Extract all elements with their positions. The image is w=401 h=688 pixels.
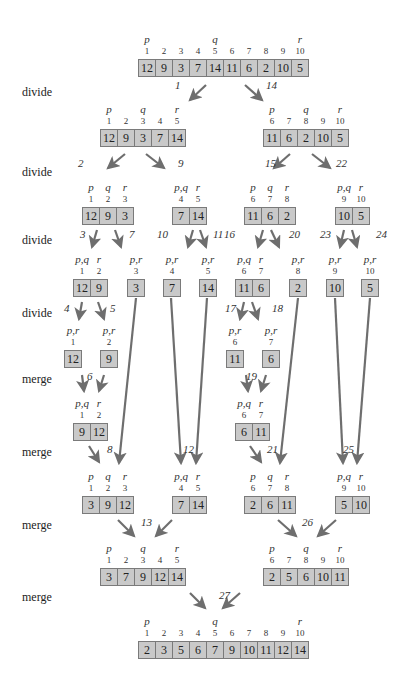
index-label: 5 (206, 46, 224, 56)
array-cells: 7 (163, 279, 181, 297)
pointer-label: r (331, 103, 349, 115)
pointer-label: p,q (335, 470, 353, 482)
array-cell: 6 (297, 568, 315, 586)
array-cell: 3 (127, 279, 145, 297)
arrow (156, 520, 172, 536)
pointer-label: p (263, 103, 281, 115)
row-label-divide: divide (22, 165, 52, 180)
array-cell: 11 (278, 496, 296, 514)
array-cell: 7 (117, 568, 135, 586)
step-number: 13 (141, 516, 152, 528)
row-label-merge: merge (22, 372, 52, 387)
index-label: 2 (117, 555, 135, 565)
index-label: 2 (155, 628, 173, 638)
index-label: 1 (100, 116, 118, 126)
array-cell: 7 (172, 496, 190, 514)
pointer-label: p,r (289, 253, 307, 265)
array-cell: 12 (64, 350, 82, 368)
array-cell: 5 (361, 279, 379, 297)
index-label: 10 (331, 116, 349, 126)
index-label: 7 (252, 266, 270, 276)
step-number: 9 (178, 157, 184, 169)
index-label: 3 (134, 555, 152, 565)
array-cells: 3791214 (100, 568, 186, 586)
pointer-label: p,q (73, 253, 91, 265)
arrow (200, 230, 206, 247)
pointer-label: r (168, 103, 186, 115)
array-cells: 5 (361, 279, 379, 297)
step-number: 18 (272, 302, 283, 314)
array-cell: 3 (134, 129, 152, 147)
pointer-label: p,r (262, 324, 280, 336)
pointer-label: p (100, 542, 118, 554)
pointer-label: p,r (326, 253, 344, 265)
step-number: 8 (107, 443, 113, 455)
index-label: 10 (331, 555, 349, 565)
index-label: 9 (326, 266, 344, 276)
array-cell: 6 (252, 279, 270, 297)
index-label: 1 (138, 628, 156, 638)
pointer-label: q (261, 181, 279, 193)
step-number: 11 (213, 228, 223, 240)
index-label: 2 (99, 194, 117, 204)
array-cell: 12 (274, 641, 292, 659)
pointer-label: p (244, 470, 262, 482)
step-number: 24 (376, 228, 387, 240)
pointer-label: q (261, 470, 279, 482)
pointer-label: r (252, 253, 270, 265)
index-label: 5 (168, 555, 186, 565)
index-label: 5 (189, 483, 207, 493)
index-label: 6 (263, 555, 281, 565)
pointer-label: p,r (100, 324, 118, 336)
arrow (261, 375, 266, 391)
pointer-label: p,r (163, 253, 181, 265)
index-label: 6 (263, 116, 281, 126)
pointer-label: p (82, 181, 100, 193)
step-number: 3 (80, 228, 86, 240)
array-cells: 3 (127, 279, 145, 297)
array-cells: 714 (172, 496, 207, 514)
array-cells: 12937141162105 (138, 59, 309, 77)
pointer-label: p,r (226, 324, 244, 336)
array-cells: 2 (289, 279, 307, 297)
index-label: 4 (189, 46, 207, 56)
index-label: 4 (151, 555, 169, 565)
array-cell: 2 (263, 568, 281, 586)
index-label: 4 (172, 194, 190, 204)
index-label: 6 (244, 483, 262, 493)
array-cells: 1162105 (263, 129, 349, 147)
pointer-label: q (206, 615, 224, 627)
arrow (278, 520, 296, 536)
array-cell: 7 (189, 59, 207, 77)
index-label: 7 (261, 194, 279, 204)
index-label: 9 (314, 555, 332, 565)
pointer-label: r (116, 181, 134, 193)
step-number: 1 (175, 79, 181, 91)
arrow (271, 230, 279, 247)
step-number: 21 (267, 443, 278, 455)
arrow (196, 298, 207, 463)
array-cell: 7 (151, 129, 169, 147)
pointer-label: r (189, 181, 207, 193)
index-label: 2 (117, 116, 135, 126)
pointer-label: r (90, 253, 108, 265)
arrow (171, 298, 181, 463)
index-label: 1 (82, 483, 100, 493)
array-cell: 6 (189, 641, 207, 659)
array-cell: 14 (189, 207, 207, 225)
arrow (190, 85, 206, 100)
pointer-label: p (138, 615, 156, 627)
step-number: 20 (289, 228, 300, 240)
arrow (89, 446, 99, 462)
index-label: 7 (261, 483, 279, 493)
array-cell: 3 (116, 207, 134, 225)
arrow (146, 154, 164, 168)
array-cell: 7 (206, 641, 224, 659)
pointer-label: q (206, 33, 224, 45)
index-label: 9 (314, 116, 332, 126)
pointer-label: r (291, 33, 309, 45)
merge-sort-diagram: dividedividedividedividemergemergemergem… (0, 0, 401, 688)
index-label: 6 (223, 46, 241, 56)
array-cell: 14 (199, 279, 217, 297)
array-cell: 10 (314, 129, 332, 147)
